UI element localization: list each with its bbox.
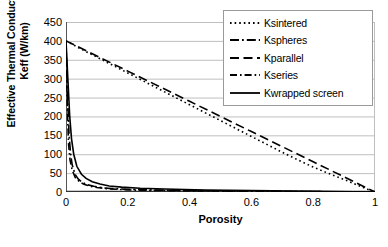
legend-item-label: Kspheres <box>264 34 307 46</box>
legend-line-sample <box>229 34 261 46</box>
legend-item-label: Kparallel <box>264 52 304 64</box>
y-tick-label: 350 <box>32 54 62 65</box>
x-tick-label: 0.6 <box>231 196 271 208</box>
legend-item[interactable]: Kseries <box>229 67 368 85</box>
legend-item[interactable]: Kparallel <box>229 49 368 67</box>
legend-item-label: Kseries <box>264 69 298 81</box>
chart-legend: KsinteredKspheresKparallelKseriesKwrappe… <box>223 10 373 106</box>
y-axis-title: Effective Thermal Conductivity, Keff (W/… <box>1 0 35 141</box>
y-tick-label: 100 <box>32 149 62 160</box>
legend-item[interactable]: Ksintered <box>229 14 368 32</box>
x-axis-tick-labels: 00.20.40.60.81 <box>66 196 375 212</box>
y-axis-title-line-2: Keff (W/km) <box>18 22 31 79</box>
y-tick-label: 50 <box>32 168 62 179</box>
y-tick-label: 400 <box>32 35 62 46</box>
y-tick-label: 300 <box>32 73 62 84</box>
legend-line-sample <box>229 87 261 99</box>
legend-item-label: Ksintered <box>264 17 307 29</box>
legend-item[interactable]: Kwrapped screen <box>229 84 368 102</box>
legend-line-sample <box>229 69 261 81</box>
y-axis-tick-labels: 050100150200250300350400450 <box>32 0 62 247</box>
figure-caption <box>34 238 364 246</box>
x-tick-label: 0.4 <box>170 196 210 208</box>
legend-line-sample <box>229 52 261 64</box>
y-tick-label: 200 <box>32 111 62 122</box>
legend-line-sample <box>229 17 261 29</box>
legend-item[interactable]: Kspheres <box>229 32 368 50</box>
x-tick-label: 0.8 <box>293 196 333 208</box>
legend-item-label: Kwrapped screen <box>264 87 343 99</box>
x-tick-label: 1 <box>355 196 388 208</box>
x-axis-title: Porosity <box>66 213 375 225</box>
chart-figure: Effective Thermal Conductivity, Keff (W/… <box>0 0 388 247</box>
y-tick-label: 150 <box>32 130 62 141</box>
y-tick-label: 450 <box>32 17 62 28</box>
x-tick-label: 0 <box>46 196 86 208</box>
x-tick-label: 0.2 <box>108 196 148 208</box>
y-axis-title-line-1: Effective Thermal Conductivity, <box>5 0 18 128</box>
y-tick-label: 250 <box>32 92 62 103</box>
